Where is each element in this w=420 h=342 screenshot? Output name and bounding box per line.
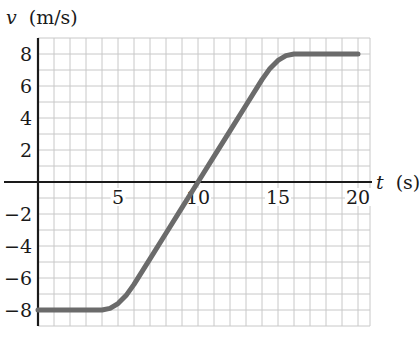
y-tick-label: −6 [4,267,32,289]
y-axis-variable: v [6,6,17,28]
y-axis-title: v (m/s) [6,6,78,28]
y-tick-label: −8 [4,299,32,321]
x-axis-variable: t [376,171,384,193]
y-tick-label: 8 [20,43,32,65]
x-tick-label: 5 [112,186,124,208]
y-tick-label: 2 [20,139,32,161]
y-tick-label: 4 [20,107,32,129]
y-tick-label: −4 [4,235,32,257]
x-tick-label: 20 [346,186,370,208]
velocity-time-chart: 8642−2−4−6−8 5101520 v (m/s) t (s) [0,0,420,342]
y-axis-unit: (m/s) [29,6,78,28]
y-tick-label: 6 [20,75,32,97]
x-tick-label: 15 [266,186,290,208]
x-axis-unit: (s) [396,171,420,193]
axes [4,38,372,326]
y-tick-label: −2 [4,203,32,225]
x-axis-title: t (s) [376,171,420,193]
